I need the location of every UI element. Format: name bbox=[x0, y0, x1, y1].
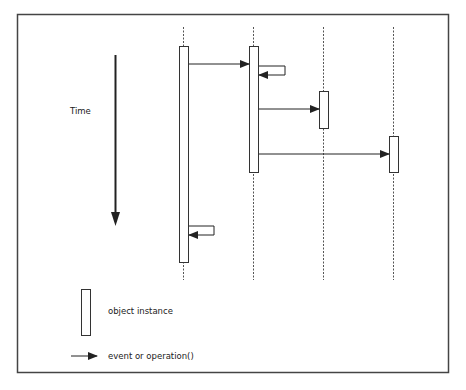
sequence-diagram: Time object instance event or operation(… bbox=[0, 0, 466, 390]
activation-box-2 bbox=[250, 47, 259, 173]
activation-box-1 bbox=[180, 47, 189, 263]
time-label: Time bbox=[69, 106, 91, 116]
activation-box-3 bbox=[320, 92, 329, 129]
legend-event-label: event or operation() bbox=[108, 351, 194, 361]
legend-object-instance-label: object instance bbox=[108, 306, 173, 316]
self-call-1 bbox=[189, 226, 214, 235]
legend-object-instance-icon bbox=[82, 290, 91, 336]
time-arrow-head bbox=[111, 212, 120, 226]
activation-box-4 bbox=[390, 137, 399, 173]
self-call-2 bbox=[259, 66, 285, 75]
